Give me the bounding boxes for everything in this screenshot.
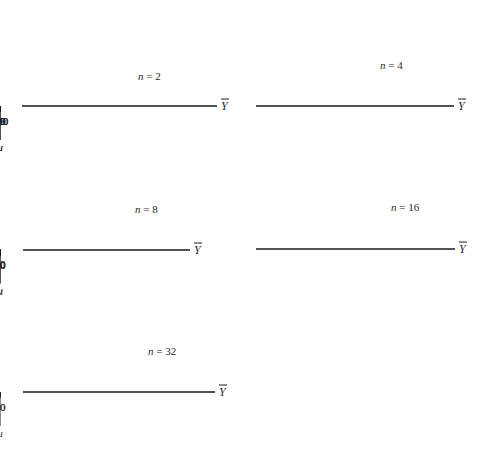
panel-n32: Y6080μn = 32 — [0, 345, 227, 439]
sample-size-label: n = 16 — [391, 201, 420, 213]
x-axis-label: Y — [459, 242, 467, 256]
sample-size-label: n = 2 — [138, 70, 161, 82]
sampling-distributions-figure: Y20406080100120μn = 2 Y406080100μn = 4 Y… — [0, 0, 482, 454]
mu-label: μ — [0, 141, 3, 153]
panel-n2: Y20406080100120μn = 2 — [0, 70, 229, 153]
panel-n8: Y406080μn = 8 — [0, 203, 202, 297]
panel-n16: Y6080μn = 16 — [0, 201, 467, 296]
x-tick-label: 80 — [0, 401, 6, 413]
sample-size-label: n = 8 — [135, 203, 158, 215]
mu-label: μ — [0, 284, 3, 296]
x-axis-label: Y — [221, 99, 229, 113]
mu-label: μ — [0, 427, 3, 439]
x-axis-label: Y — [194, 243, 202, 257]
x-tick-label: 100 — [0, 115, 9, 127]
sample-size-label: n = 32 — [148, 345, 176, 357]
x-tick-label: 80 — [0, 258, 6, 270]
x-axis-label: Y — [219, 385, 227, 399]
x-axis-label: Y — [458, 99, 466, 113]
sample-size-label: n = 4 — [380, 59, 403, 71]
